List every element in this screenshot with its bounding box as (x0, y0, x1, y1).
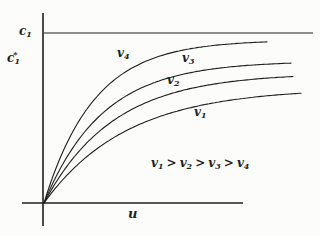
ordering-annotation: v1>v2>v3>v4 (151, 157, 249, 169)
v2-subscript: 2 (174, 78, 180, 88)
curve-label-v1: v1 (194, 106, 207, 118)
curve-label-v3: v3 (182, 52, 195, 64)
ineq-v4-sub: 4 (244, 161, 250, 171)
curve-label-v4: v4 (117, 47, 130, 59)
ineq-v2: v (180, 156, 187, 170)
greater-than-sign: > (195, 156, 205, 170)
y-axis-title-c1-star: c*1 (7, 52, 20, 64)
ineq-v4: v (237, 156, 244, 170)
v1-base: v (194, 105, 201, 119)
curve-v2 (44, 77, 293, 204)
c1-asymptote-label: c1 (19, 25, 32, 37)
v3-base: v (182, 51, 189, 65)
c1star-subscript: 1 (15, 56, 21, 66)
curve-label-v2: v2 (167, 74, 180, 86)
v4-subscript: 4 (124, 51, 130, 61)
x-axis-title: u (128, 207, 137, 220)
greater-than-sign: > (224, 156, 234, 170)
v2-base: v (167, 73, 174, 87)
v1-subscript: 1 (201, 110, 207, 120)
u-base: u (128, 206, 137, 221)
plot-canvas (0, 0, 320, 236)
ineq-v2-sub: 2 (187, 161, 193, 171)
saturation-curves-figure: c1 c*1 v4 v3 v2 v1 v1>v2>v3>v4 u (0, 0, 320, 236)
greater-than-sign: > (167, 156, 177, 170)
ineq-v3-sub: 3 (215, 161, 221, 171)
c1-subscript: 1 (26, 29, 32, 39)
ineq-v1-sub: 1 (158, 161, 164, 171)
v4-base: v (117, 46, 124, 60)
v3-subscript: 3 (189, 56, 195, 66)
ineq-v1: v (151, 156, 158, 170)
